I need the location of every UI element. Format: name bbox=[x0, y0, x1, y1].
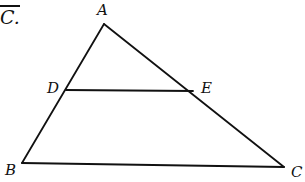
triangle-diagram bbox=[0, 0, 305, 182]
vertex-label-e: E bbox=[201, 81, 212, 96]
side-ab bbox=[22, 24, 104, 163]
vertex-label-c: C bbox=[291, 165, 302, 180]
vertex-label-b: B bbox=[5, 163, 16, 178]
vertex-label-a: A bbox=[97, 3, 108, 18]
side-ac bbox=[104, 24, 284, 167]
side-bc bbox=[22, 163, 284, 167]
vertex-label-d: D bbox=[47, 81, 59, 96]
segment-de bbox=[66, 90, 193, 91]
